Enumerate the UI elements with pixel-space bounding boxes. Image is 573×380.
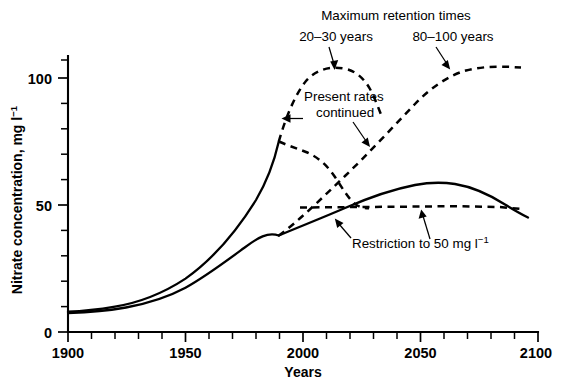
annotation-restriction-text: Restriction to 50 mg l [352, 236, 478, 251]
leader-retention-long [436, 47, 450, 70]
curve-declining-branch-dashed [279, 142, 369, 209]
y-axis-title-main: Nitrate concentration, mg l [9, 117, 25, 294]
leader-restriction-right [419, 210, 430, 240]
svg-text:Nitrate concentration, mg l−1: Nitrate concentration, mg l−1 [8, 105, 25, 294]
y-tick-label-100: 100 [28, 71, 52, 87]
y-axis-title: Nitrate concentration, mg l−1 [8, 105, 25, 294]
arrowhead-restriction-right-icon [419, 210, 427, 219]
annotation-retention-short-label: 20–30 years [299, 29, 373, 44]
curve-historic-upper-solid [68, 142, 279, 312]
x-tick-label-2100: 2100 [520, 345, 552, 361]
arrowhead-present-rates-right-icon [362, 138, 371, 147]
x-tick-label-1900: 1900 [52, 345, 84, 361]
arrowhead-restriction-left-icon [335, 219, 344, 229]
axes-group [58, 56, 538, 342]
y-major-ticks [58, 78, 68, 332]
x-tick-label-1950: 1950 [169, 345, 201, 361]
annotation-restriction-superscript: −1 [478, 234, 489, 245]
data-curves [68, 67, 528, 313]
leader-present-rates-left [282, 114, 304, 122]
x-tick-label-2000: 2000 [287, 345, 319, 361]
nitrate-projection-chart: 0 50 100 1900 1950 2000 2050 2100 Years … [0, 0, 573, 380]
y-tick-label-50: 50 [36, 198, 52, 214]
x-tick-labels: 1900 1950 2000 2050 2100 [52, 345, 552, 361]
annotation-max-retention-heading: Maximum retention times [321, 8, 471, 23]
y-axis-title-superscript: −1 [8, 105, 19, 117]
x-tick-label-2050: 2050 [404, 345, 436, 361]
annotation-restriction-label: Restriction to 50 mg l−1 [352, 234, 489, 251]
x-axis-title: Years [284, 364, 322, 380]
arrowhead-present-rates-left-icon [282, 114, 291, 122]
curve-restriction-response-solid [279, 183, 528, 236]
curve-historic-lower-solid [68, 234, 279, 313]
chart-figure: 0 50 100 1900 1950 2000 2050 2100 Years … [0, 0, 573, 380]
annotation-present-rates-line2: continued [316, 105, 374, 120]
annotation-retention-long-label: 80–100 years [412, 29, 493, 44]
leader-present-rates-right [353, 122, 370, 147]
y-tick-labels: 0 50 100 [28, 71, 52, 341]
leader-restriction-left [335, 219, 351, 239]
curve-restriction-50-dashed [300, 206, 521, 209]
annotation-present-rates-line1: Present rates [304, 89, 384, 104]
y-tick-label-0: 0 [44, 325, 52, 341]
